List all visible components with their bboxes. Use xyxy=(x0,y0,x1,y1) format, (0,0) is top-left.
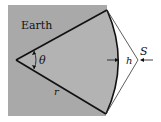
label-h: h xyxy=(126,55,132,66)
label-earth: Earth xyxy=(21,19,52,32)
label-theta: θ xyxy=(39,54,46,67)
label-s: S xyxy=(140,45,148,58)
earth-horizon-diagram: Earth θ r h S xyxy=(0,0,161,122)
h-arrowhead-right xyxy=(140,58,144,62)
